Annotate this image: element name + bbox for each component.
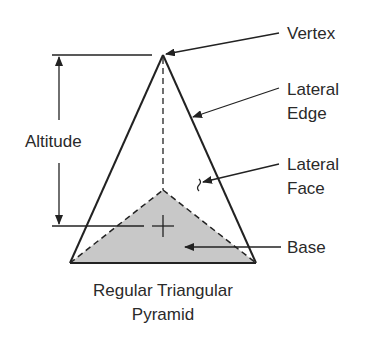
pyramid-diagram: Vertex Lateral Edge Lateral Face Base Al… — [0, 0, 372, 345]
lateral-face-leader-arrow — [203, 164, 279, 182]
lateral-face-squiggle-icon — [198, 179, 201, 191]
lateral-face-label-line1: Lateral — [287, 155, 339, 174]
lateral-face-label-line2: Face — [287, 179, 325, 198]
caption-line1: Regular Triangular — [93, 281, 233, 300]
base-label: Base — [287, 238, 326, 257]
vertex-leader-arrow — [166, 33, 279, 54]
vertex-label: Vertex — [287, 24, 336, 43]
altitude-label: Altitude — [25, 132, 82, 151]
lateral-edge-label-line2: Edge — [287, 104, 327, 123]
lateral-edge-leader-arrow — [193, 88, 279, 117]
lateral-edge-label-line1: Lateral — [287, 80, 339, 99]
caption-line2: Pyramid — [132, 305, 194, 324]
